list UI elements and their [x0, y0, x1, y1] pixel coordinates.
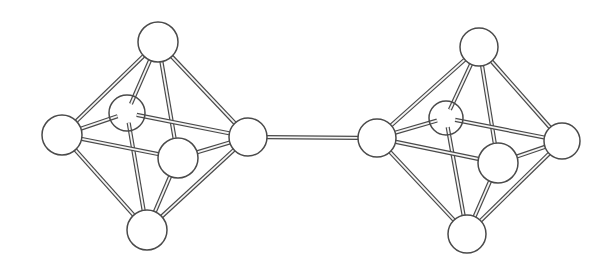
- right-octahedron-atom-right: [544, 123, 580, 159]
- octahedral-clusters-diagram: [0, 0, 610, 265]
- left-octahedron-atom-left: [42, 115, 82, 155]
- bridge-bond: [266, 137, 359, 138]
- left-octahedron-atom-back: [109, 95, 145, 131]
- left-octahedron-atom-bottom: [127, 210, 167, 250]
- right-octahedron-atom-front: [478, 143, 518, 183]
- left-octahedron-atom-top: [138, 22, 178, 62]
- left-octahedron-atom-right: [229, 118, 267, 156]
- left-octahedron-atom-front: [158, 138, 198, 178]
- right-octahedron-atom-left: [358, 119, 396, 157]
- right-octahedron-atom-bottom: [448, 215, 486, 253]
- right-octahedron-atom-top: [460, 28, 498, 66]
- right-octahedron-atom-back: [429, 101, 463, 135]
